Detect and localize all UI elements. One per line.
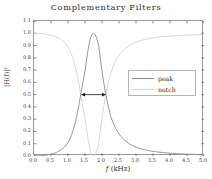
legend-label: notch [158, 84, 176, 95]
legend-swatch [132, 78, 154, 79]
y-axis-label: |H(f)|² [3, 49, 11, 105]
legend-entry: peak [132, 73, 194, 84]
x-axis-label-units: (kHz) [108, 165, 130, 173]
legend-entry: notch [132, 84, 194, 95]
y-tick-label: 0.9 [5, 42, 31, 48]
chart-title: Complementary Filters [0, 2, 212, 12]
y-tick-label: 1.0 [5, 29, 31, 35]
legend: peaknotch [128, 70, 196, 96]
x-tick-label: 5.0 [191, 157, 212, 163]
legend-label: peak [158, 73, 173, 84]
y-tick-label: 0.2 [5, 127, 31, 133]
y-tick-label: 0.1 [5, 140, 31, 146]
y-tick-label: 1.1 [5, 17, 31, 23]
legend-swatch [132, 89, 154, 90]
x-axis-label: f (kHz) [33, 165, 203, 173]
chart-figure: Complementary Filters 0.00.10.20.30.40.5… [0, 0, 212, 179]
y-tick-label: 0.3 [5, 115, 31, 121]
